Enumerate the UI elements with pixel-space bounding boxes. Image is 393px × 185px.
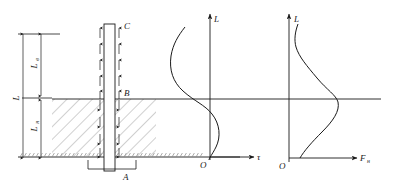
chart2-curve <box>295 24 338 158</box>
point-label-B: B <box>124 88 130 98</box>
dim-label-total-L: L <box>11 95 21 101</box>
chart-axial-force: L F н O <box>279 14 370 171</box>
figure-canvas: L L в L н <box>0 0 393 185</box>
chart2-origin-label: O <box>279 161 286 171</box>
dim-label-lower-Ln-subscript: н <box>34 121 40 124</box>
pile-shaft-body <box>104 24 115 171</box>
chart2-x-axis-label: F н <box>359 153 370 164</box>
pile-shaft <box>104 24 115 171</box>
soil-mass <box>18 99 381 157</box>
chart2-y-axis-label: L <box>293 14 299 24</box>
chart2-x-axis-label-subscript: н <box>367 158 370 164</box>
dim-label-lower-Ln: L н <box>29 121 40 133</box>
chart-shaft-friction: L τ O <box>171 14 262 170</box>
dim-label-upper-Lv: L в <box>29 58 40 70</box>
chart1-y-axis-label: L <box>213 14 219 24</box>
chart2-x-axis-label-text: F <box>359 153 366 163</box>
technical-diagram: L L в L н <box>0 0 393 185</box>
dim-label-upper-Lv-text: L <box>29 63 39 69</box>
point-label-C: C <box>124 21 131 31</box>
dim-label-lower-Ln-text: L <box>29 126 39 132</box>
dim-label-total-L-text: L <box>11 95 21 101</box>
dim-label-upper-Lv-subscript: в <box>34 58 40 61</box>
chart1-x-axis-label: τ <box>257 152 261 162</box>
point-label-A: A <box>122 172 129 182</box>
chart1-curve <box>171 27 220 160</box>
chart1-origin-label: O <box>200 160 207 170</box>
